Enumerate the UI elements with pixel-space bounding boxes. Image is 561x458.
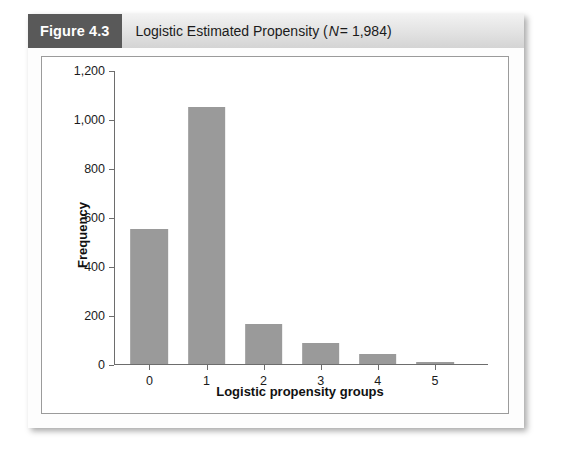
figure-number-badge: Figure 4.3 xyxy=(28,14,122,48)
x-tick-mark xyxy=(435,365,436,370)
y-tick-label: 400 xyxy=(84,260,105,274)
bar-3 xyxy=(302,343,340,364)
y-tick-label: 1,000 xyxy=(74,113,105,127)
y-axis-line xyxy=(114,71,115,365)
x-tick-mark xyxy=(149,365,150,370)
y-tick-mark xyxy=(109,169,114,170)
x-axis-title: Logistic propensity groups xyxy=(114,384,486,399)
y-tick-mark xyxy=(109,267,114,268)
figure-card: Figure 4.3 Logistic Estimated Propensity… xyxy=(28,14,524,428)
x-tick-mark xyxy=(378,365,379,370)
figure-title-prefix: Logistic Estimated Propensity ( xyxy=(136,23,328,39)
bar-0 xyxy=(131,229,169,364)
plot-axes: 02004006008001,0001,200 012345 xyxy=(114,71,488,365)
y-tick-label: 0 xyxy=(98,358,105,372)
bar-1 xyxy=(188,107,226,364)
y-tick-label: 200 xyxy=(84,309,105,323)
x-tick-mark xyxy=(207,365,208,370)
bar-4 xyxy=(359,354,397,364)
y-tick-mark xyxy=(109,120,114,121)
y-tick-label: 600 xyxy=(84,211,105,225)
figure-title-italic-n: N xyxy=(328,23,340,39)
x-axis-line xyxy=(114,364,488,365)
plot-panel: Frequency 02004006008001,0001,200 012345… xyxy=(41,56,509,414)
bar-2 xyxy=(245,324,283,364)
x-tick-mark xyxy=(321,365,322,370)
y-tick-mark xyxy=(109,71,114,72)
y-tick-mark xyxy=(109,218,114,219)
bar-5 xyxy=(416,362,454,364)
figure-header: Figure 4.3 Logistic Estimated Propensity… xyxy=(28,14,524,48)
y-tick-label: 1,200 xyxy=(74,64,105,78)
y-tick-label: 800 xyxy=(84,162,105,176)
figure-title-suffix: = 1,984) xyxy=(340,23,392,39)
y-tick-mark xyxy=(109,316,114,317)
y-tick-mark xyxy=(109,365,114,366)
x-tick-mark xyxy=(264,365,265,370)
figure-title: Logistic Estimated Propensity (N = 1,984… xyxy=(122,14,392,48)
